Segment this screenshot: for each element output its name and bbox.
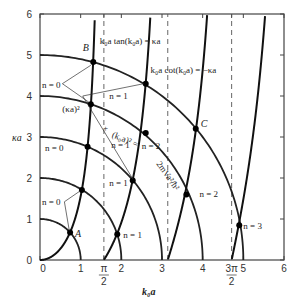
x-tick-label: 3: [159, 263, 165, 274]
n-label: n = 1: [109, 91, 128, 101]
annotation-arrow: [64, 202, 69, 231]
intersection-point: [85, 144, 91, 150]
label-C: C: [201, 118, 208, 129]
x-tick-label-den: 2: [101, 276, 107, 287]
x-tick-label: 6: [281, 263, 287, 274]
n-label: n = 1: [111, 140, 130, 150]
cot-curve-label: k₀a cot(k₀a) = −κa: [151, 65, 217, 75]
y-tick-label: 4: [26, 91, 32, 102]
intersection-point: [193, 126, 199, 132]
intersection-point: [114, 231, 120, 237]
n-label: n = 1: [109, 178, 128, 188]
y-tick-label: 0: [26, 255, 32, 266]
intersection-point: [79, 187, 85, 193]
y-tick-label: 1: [26, 214, 32, 225]
y-tick-label: 6: [26, 9, 32, 20]
n-label: n = 0: [45, 143, 64, 153]
intersection-point: [183, 191, 189, 197]
y-tick-label: 5: [26, 50, 32, 61]
tan-curve-label: k₀a tan(k₀a) = κa: [100, 36, 161, 46]
annotation-arrow: [64, 191, 79, 202]
n-label: n = 0: [42, 80, 61, 90]
intersection-point: [90, 59, 96, 65]
x-tick-label: 0: [40, 263, 46, 274]
y-axis-label: κa: [12, 132, 22, 143]
circle-eq-label: (κa)²: [62, 104, 80, 114]
y-tick-label: 3: [26, 132, 32, 143]
n-label: n = 2: [199, 189, 218, 199]
x-axis-label: k₀a: [142, 286, 156, 297]
label-B: B: [83, 42, 89, 53]
x-tick-label-num: π: [100, 263, 107, 274]
circle-r1: [40, 219, 81, 260]
x-tick-label: 5: [241, 263, 247, 274]
annotation-arrow: [62, 65, 90, 83]
x-tick-label: 4: [200, 263, 206, 274]
intersection-point: [143, 130, 149, 136]
n-label: n = 0: [42, 197, 61, 207]
n-label: n = 1: [123, 230, 142, 240]
x-tick-label: 1: [78, 263, 84, 274]
tan-curve-branch-2: [168, 15, 207, 259]
x-tick-label: 2: [119, 263, 125, 274]
n-label: n = 2: [142, 141, 161, 151]
x-tick-label-den: 2: [229, 276, 235, 287]
y-tick-label: 2: [26, 173, 32, 184]
intersection-point: [236, 222, 242, 228]
x-tick-label-num: 3π: [225, 263, 238, 274]
chart: 01234560123456π23π2k₀aκaABCk₀a tan(k₀a) …: [0, 0, 295, 306]
label-A: A: [74, 228, 82, 239]
intersection-point: [67, 230, 73, 236]
n-label: n = 3: [243, 221, 262, 231]
